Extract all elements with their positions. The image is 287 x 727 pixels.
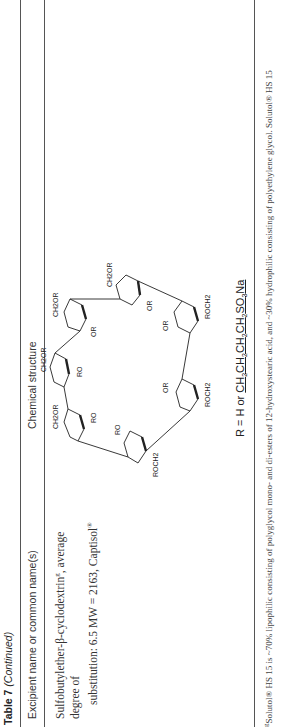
- table-footnote: gSolutol® HS 15 is ~70% lipophilic consi…: [262, 0, 274, 727]
- column-header-structure: Chemical structure: [26, 341, 38, 429]
- svg-text:ROCH2: ROCH2: [204, 294, 211, 319]
- svg-text:OR: OR: [162, 383, 169, 394]
- r-group-definition: R = H or CH2CH2CH2CH2SO3Na: [234, 280, 248, 437]
- table-number: Table 7: [2, 690, 14, 725]
- svg-text:RO: RO: [90, 412, 97, 423]
- table-continued: (Continued): [2, 632, 14, 687]
- table-caption: Table 7 (Continued): [2, 632, 14, 725]
- column-header-name: Excipient name or common name(s): [26, 550, 38, 719]
- svg-text:ROCH2: ROCH2: [152, 452, 159, 477]
- svg-text:CH2OR: CH2OR: [52, 404, 59, 429]
- svg-text:OR: OR: [146, 301, 153, 312]
- svg-text:CH2OR: CH2OR: [40, 347, 47, 372]
- rotated-page: Table 7 (Continued) Excipient name or co…: [0, 0, 287, 727]
- bottom-rule: [254, 0, 255, 727]
- svg-text:OR: OR: [162, 321, 169, 332]
- glucose-unit-1: [64, 409, 84, 441]
- glucose-unit-2: [50, 353, 69, 387]
- svg-text:ROCH2: ROCH2: [204, 382, 211, 407]
- glucose-unit-6: [176, 379, 198, 411]
- svg-text:RO: RO: [76, 366, 83, 377]
- svg-text:OR: OR: [90, 327, 97, 338]
- svg-text:RO: RO: [114, 424, 121, 435]
- svg-text:CH2OR: CH2OR: [52, 292, 59, 317]
- excipient-name: Sulfobutylether-β-cyclodextring, average…: [50, 509, 101, 719]
- top-rule: [20, 0, 21, 727]
- glucose-unit-7: [124, 431, 146, 463]
- cyclodextrin-structure-diagram: CH2OR CH2OR CH2OR CH2OR ROCH2 ROCH2 ROCH…: [40, 257, 225, 477]
- glucose-unit-3: [64, 299, 86, 331]
- svg-text:CH2OR: CH2OR: [106, 262, 113, 287]
